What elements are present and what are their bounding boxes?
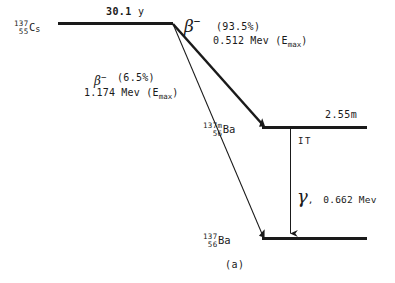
- beta-major-energy-qualifier-close: ): [301, 36, 307, 47]
- cs137-atomic-number: 55: [19, 28, 29, 36]
- beta-major-glyph: β: [184, 16, 194, 36]
- ba137-atomic-number: 56: [208, 241, 218, 249]
- ba137-element-symbol: Ba: [218, 235, 231, 246]
- half-life-cs137: 30.1 y: [106, 7, 145, 18]
- decay-diagram-canvas: [0, 0, 395, 283]
- nuclide-label-cs137: 137 55 C s: [14, 12, 40, 35]
- gamma-annotation: γ, 0.662 Mev: [297, 188, 377, 206]
- beta-major-charge-sign: −: [194, 15, 201, 28]
- beta-major-energy-qualifier-sub: max: [288, 41, 302, 49]
- beta-major-energy-value: 0.512 Mev: [213, 36, 269, 47]
- cs137-element-symbol-tail: s: [35, 25, 40, 34]
- half-life-cs137-unit: y: [138, 7, 144, 18]
- beta-minor-charge-sign: −: [101, 72, 106, 82]
- beta-branch-major-symbol: β−: [184, 18, 200, 35]
- beta-branch-minor-intensity: (6.5%): [117, 73, 155, 84]
- beta-major-energy-qualifier-open: (E: [275, 36, 287, 47]
- beta-minor-energy-qualifier-sub: max: [159, 93, 173, 101]
- beta-minor-glyph: β: [94, 74, 101, 88]
- figure-caption: (a): [225, 260, 245, 271]
- beta-minor-energy-qualifier-close: ): [172, 88, 178, 99]
- nuclide-label-ba137: 137 56 Ba: [203, 225, 231, 248]
- decay-scheme-figure: 137 55 C s 30.1 y β− (93.5%) 0.512 Mev (…: [0, 0, 395, 283]
- ba137m-atomic-number: 56: [213, 130, 223, 138]
- ba137m-element-symbol: Ba: [223, 124, 236, 135]
- beta-branch-major-intensity: (93.5%): [216, 22, 260, 33]
- beta-minor-energy-qualifier-open: (E: [146, 88, 158, 99]
- beta-branch-minor-symbol: β−: [94, 71, 106, 88]
- beta-minor-energy-value: 1.174 Mev: [84, 88, 140, 99]
- gamma-energy-value: 0.662 Mev: [323, 195, 376, 205]
- beta-branch-major-energy: 0.512 Mev (Emax): [213, 36, 307, 47]
- nuclide-label-ba137m: 137m 56 Ba: [203, 114, 235, 137]
- half-life-ba137m: 2.55m: [325, 110, 357, 121]
- beta-branch-minor-energy: 1.174 Mev (Emax): [84, 88, 178, 99]
- half-life-cs137-value: 30.1: [106, 7, 132, 18]
- gamma-glyph: γ: [297, 188, 308, 206]
- transition-mode-label: IT: [298, 137, 312, 147]
